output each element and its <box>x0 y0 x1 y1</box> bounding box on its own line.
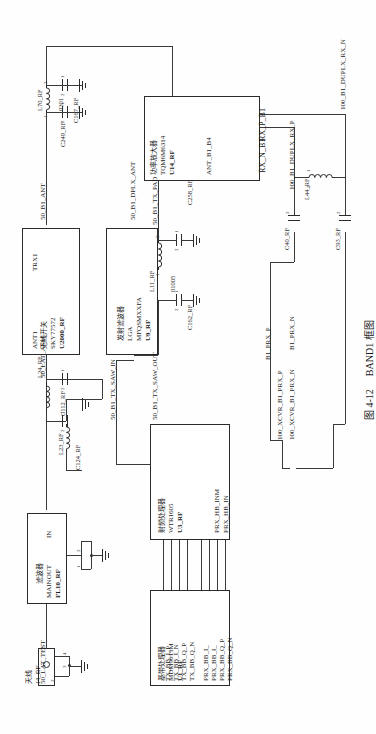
capacitor-c40 <box>288 215 300 229</box>
bus-line <box>217 540 218 590</box>
c112-pin2: 2 <box>60 388 65 391</box>
fl10-pin-num: 2 <box>76 550 81 553</box>
l70-refdes: L70_RF <box>36 89 43 111</box>
u2000-refdes: U2000_RF <box>59 317 67 349</box>
capacitor-c112 <box>62 373 76 385</box>
wire <box>159 240 177 241</box>
wire <box>333 424 345 425</box>
wire <box>270 262 294 263</box>
c249-pin2: 2 <box>60 121 65 124</box>
wire <box>55 112 63 113</box>
u14-part: TQM6M6314 <box>160 136 168 175</box>
l44-refdes: L44_RF <box>303 178 310 200</box>
c40-pin1: 1 <box>285 230 290 233</box>
block-u2000-antenna-switch[interactable]: U2000_RF SKY77572 无线开关 ANT1 TRX1 <box>22 228 80 355</box>
wire <box>55 656 69 657</box>
bus-line <box>187 540 188 590</box>
net-label-50-lat-test: 50_LAT_TEST <box>40 640 48 684</box>
bus-line <box>179 540 180 590</box>
u9-refdes: U9_RF <box>145 320 153 341</box>
caption-title: BAND1 框图 <box>364 320 375 376</box>
wire <box>67 555 81 556</box>
c112-pin1: 1 <box>60 370 65 373</box>
wire <box>46 46 172 47</box>
block-fl10-filter[interactable]: FL10_RF MAINOUT IN 滤波器 <box>27 513 67 604</box>
fl10-pin-in: IN <box>46 531 54 538</box>
wire <box>67 85 79 86</box>
wire <box>260 114 345 115</box>
wire <box>91 555 102 556</box>
block-u1-baseband-processor[interactable]: U1_RF MDM9615M 基带处理器 TX_BB_I_P TX_BB_I_N… <box>150 590 230 686</box>
antenna-label: 天线 <box>26 670 34 684</box>
u14-pin-rx-n-b1: RX_N_B1 <box>259 139 268 173</box>
l70-pin1: 1 <box>43 116 48 119</box>
wire <box>69 666 81 667</box>
c258-pin2: 2 <box>174 249 179 252</box>
capacitor-c124 <box>62 415 76 427</box>
wire <box>294 232 295 262</box>
bus-line <box>201 540 202 590</box>
c124-pin2: 2 <box>60 430 65 433</box>
fl10-desc: 滤波器 <box>37 563 45 584</box>
wire <box>282 440 283 468</box>
wire <box>345 177 346 215</box>
net-label-100-b1-duplx-rx-n: 100_B1_DUPLX_RX_N <box>340 39 348 110</box>
wire <box>116 464 150 465</box>
block-u14-power-amplifier[interactable]: U14_RF TQM6M6314 功率放大器 ANT_B1_B4 RX_N_B1… <box>144 96 260 181</box>
net-label-50-b1-dplx-ant: 50_B1_DPLX_ANT <box>130 162 138 220</box>
fl10-pin-mainout: MAINOUT <box>46 565 54 598</box>
c249-refdes: C249_RF <box>59 122 66 147</box>
inductor-l11 <box>152 240 165 270</box>
block-u3-rf-transceiver[interactable]: U3_RF WTR1605 射频处理器 PRX_HB_IN PRX_HB_INM <box>150 424 230 540</box>
c249-pin1: 1 <box>60 103 65 106</box>
c162-pin2: 2 <box>174 309 179 312</box>
l11-pin1: 1 <box>155 274 160 277</box>
l11-refdes: L11_RF <box>148 271 155 292</box>
wire <box>102 379 103 399</box>
wire <box>345 232 346 424</box>
wire <box>116 360 134 361</box>
c258-pin1: 1 <box>174 231 179 234</box>
u14-desc: 功率放大器 <box>151 140 159 175</box>
u9-desc: 发射滤波器 <box>118 306 126 341</box>
fl10-refdes: FL10_RF <box>55 569 63 598</box>
c93-pin1: 1 <box>336 230 341 233</box>
wire <box>55 85 63 86</box>
net-label-50-b1-tx-saw-out: 50_B1_TX_SAW_OUT <box>152 352 160 420</box>
wire <box>55 676 69 677</box>
wire <box>159 300 177 301</box>
wire <box>66 452 67 470</box>
wire <box>181 240 193 241</box>
u2000-pin-trx1: TRX1 <box>32 254 40 272</box>
connector-pin-num: 4 <box>62 653 67 656</box>
net-label-50-lat-asm: 50_LAT_ASM <box>40 336 48 378</box>
wire <box>345 114 346 177</box>
figure-caption: 图 4-12 BAND1 框图 <box>365 320 376 420</box>
wire <box>172 46 173 96</box>
wire <box>333 177 345 178</box>
u3-refdes: U3_RF <box>177 512 185 533</box>
l70-pin2: 2 <box>43 82 48 85</box>
bus-line <box>225 540 226 590</box>
wire <box>66 399 102 400</box>
u9-part: MFQSMXXFA <box>136 297 144 341</box>
l44-pin2: 2 <box>306 186 311 189</box>
net-label-b1-prx-n: B1_PRX_N <box>289 316 297 350</box>
net-label-50-b1-tx-pad: 50_B1_TX_PAD <box>152 177 160 225</box>
u3-pin-prx-hb-inm: PRX_HB_INM <box>214 489 222 533</box>
u9-package: LGA <box>127 327 135 341</box>
u14-pin-rx-p-b1: RX_P_B1 <box>259 108 268 141</box>
u3-part: WTR1605 <box>168 503 176 533</box>
wire <box>46 46 47 85</box>
wire <box>81 569 91 570</box>
u1-pin-prx-bb-q-n: PRX_BB_Q_N <box>227 637 235 681</box>
wire <box>66 470 82 471</box>
c162-pin1: 1 <box>174 291 179 294</box>
u2000-part: SKY77572 <box>50 317 58 349</box>
capacitor-c93 <box>339 215 351 229</box>
c40-pin2: 2 <box>285 212 290 215</box>
wire <box>282 468 290 469</box>
l23-refdes: L23_RF <box>57 433 64 455</box>
c162-refdes: C162_RF <box>186 305 193 330</box>
net-label-50-b1-tx-saw-in: 50_B1_TX_SAW_IN <box>110 359 118 420</box>
